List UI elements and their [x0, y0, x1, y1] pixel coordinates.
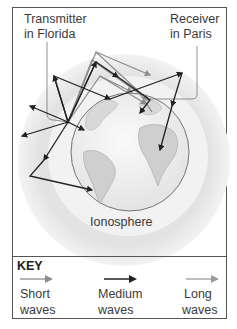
key-short-line1: Short — [20, 286, 55, 302]
receiver-label-line1: Receiver — [170, 12, 219, 27]
key-medium-line2: waves — [98, 302, 142, 318]
key-long-line2: waves — [182, 302, 218, 318]
key-item-medium-waves: Medium waves — [98, 275, 142, 318]
transmitter-label-line1: Transmitter — [24, 12, 87, 27]
receiver-label: Receiver in Paris — [170, 12, 219, 42]
key-item-long-waves: Long waves — [184, 275, 220, 318]
transmitter-label: Transmitter in Florida — [24, 12, 87, 42]
key-long-line1: Long — [184, 286, 220, 302]
transmitter-label-line2: in Florida — [24, 27, 87, 42]
key-title: KEY — [17, 259, 43, 273]
key-short-line2: waves — [20, 302, 55, 318]
key-divider — [12, 256, 227, 257]
black-arrow-icon — [104, 275, 138, 283]
key-medium-line1: Medium — [98, 286, 142, 302]
gray-arrow-icon — [186, 275, 220, 283]
receiver-label-line2: in Paris — [170, 27, 219, 42]
gray-arrow-icon — [20, 275, 54, 283]
key-item-short-waves: Short waves — [20, 275, 55, 318]
transmitter-point — [67, 121, 70, 124]
ionosphere-label: Ionosphere — [90, 215, 153, 230]
